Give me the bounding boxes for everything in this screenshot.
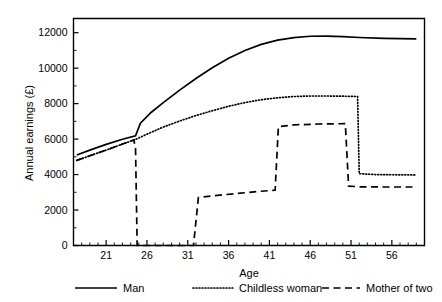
legend-label: Childless woman [239,282,322,294]
y-tick-label: 10000 [38,62,67,74]
legend-item-childless-woman: Childless woman [193,282,322,294]
legend-label: Man [123,282,144,294]
x-tick-label: 41 [264,249,276,261]
chart-figure: Annual earnings (£) Age 0200040006000800… [0,0,442,302]
x-tick-label: 31 [182,249,194,261]
legend-item-man: Man [75,282,144,294]
x-tick-label: 46 [304,249,316,261]
y-tick-label: 8000 [44,97,68,109]
series-man [77,36,417,155]
x-axis-title: Age [239,267,259,279]
x-tick-label: 26 [141,249,153,261]
y-tick-label: 6000 [44,133,68,145]
legend-label: Mother of two [366,282,433,294]
y-tick-label: 0 [62,239,68,251]
y-axis-title: Annual earnings (£) [23,85,35,181]
plot-frame [74,19,425,246]
chart-legend: ManChildless womanMother of two [75,282,433,294]
y-tick-label: 12000 [38,26,67,38]
x-tick-label: 21 [100,249,112,261]
series-childless-woman [77,96,417,175]
x-tick-label: 56 [386,249,398,261]
y-axis-tick-labels: 020004000600080001000012000 [38,26,67,251]
y-tick-label: 4000 [44,168,68,180]
y-axis-major-ticks [74,33,79,246]
legend-item-mother-of-two: Mother of two [322,282,433,294]
x-tick-label: 51 [345,249,357,261]
x-axis-tick-labels: 2126313641465156 [100,249,398,261]
x-tick-label: 36 [223,249,235,261]
earnings-by-age-line-chart: Annual earnings (£) Age 0200040006000800… [0,0,442,302]
data-series-layer [77,36,417,245]
y-tick-label: 2000 [44,204,68,216]
